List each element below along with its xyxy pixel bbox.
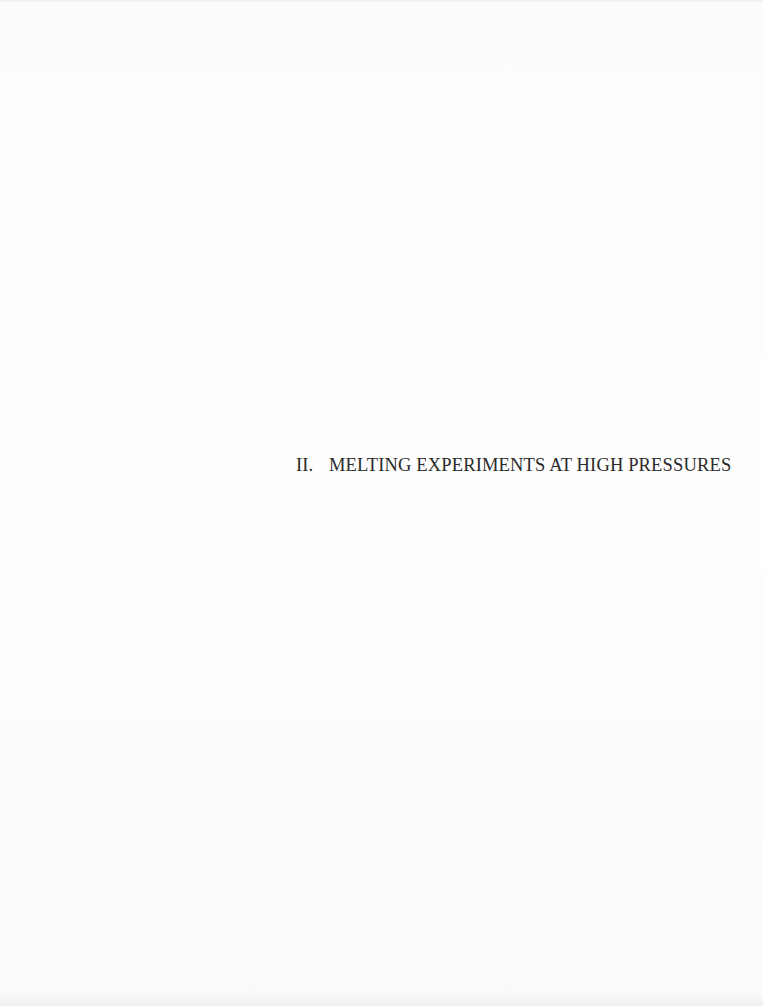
section-title: MELTING EXPERIMENTS AT HIGH PRESSURES bbox=[329, 455, 731, 475]
section-number: II. bbox=[296, 455, 329, 476]
section-heading: II.MELTING EXPERIMENTS AT HIGH PRESSURES bbox=[296, 455, 731, 476]
scan-edge-bottom bbox=[0, 994, 763, 1006]
document-page: II.MELTING EXPERIMENTS AT HIGH PRESSURES bbox=[0, 0, 763, 1006]
scan-edge-top bbox=[0, 0, 763, 3]
